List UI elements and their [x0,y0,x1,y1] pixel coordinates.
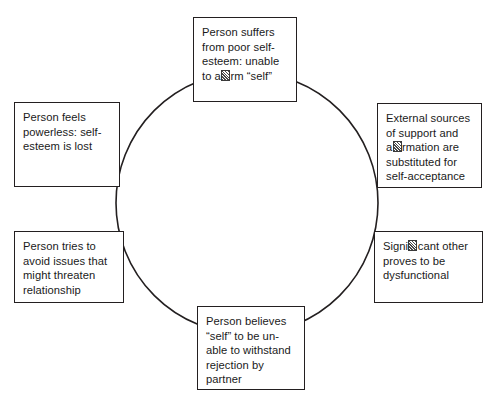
node-significant-other-line-1: Signicant other [383,239,475,254]
node-external-sources-line-3-post: rmation are [402,141,459,153]
node-self-unable-withstand-rejection: Person believes “self” to be un- able to… [197,306,305,390]
node-significant-other-line-1-pre: Signi [383,240,408,252]
node-avoid-issues-line-2: avoid issues that [23,254,116,269]
node-self-unable-line-5: partner [206,372,297,387]
node-avoid-threatening-issues: Person tries to avoid issues that might … [14,231,124,303]
node-self-unable-line-4: rejection by [206,358,297,373]
node-self-unable-line-1: Person believes [206,314,297,329]
node-avoid-issues-line-3: might threaten [23,268,116,283]
node-avoid-issues-line-4: relationship [23,283,116,298]
node-poor-self-esteem-line-1: Person suffers [202,25,289,40]
node-external-sources-line-3: armation are [386,140,474,155]
node-external-sources-line-4: substituted for [386,155,474,170]
node-poor-self-esteem-line-2: from poor self- [202,40,289,55]
node-significant-other-line-1-post: cant other [418,240,468,252]
node-external-sources-line-5: self-acceptance [386,169,474,184]
node-poor-self-esteem-line-4: to arm “self” [202,69,289,84]
node-external-sources: External sources of support and armation… [377,103,482,188]
node-feels-powerless-line-3: esteem is lost [23,139,112,154]
node-poor-self-esteem-line-4-post: rm “self” [230,70,271,82]
page-caption [0,396,489,408]
node-poor-self-esteem-line-4-pre: to a [202,70,221,82]
missing-glyph-icon [221,70,230,81]
node-self-unable-line-2: “self” to be un- [206,329,297,344]
missing-glyph-icon [408,240,417,251]
node-significant-other-dysfunctional: Signicant other proves to be dysfunction… [374,231,483,303]
node-avoid-issues-line-1: Person tries to [23,239,116,254]
node-self-unable-line-3: able to withstand [206,343,297,358]
node-external-sources-line-2: of support and [386,126,474,141]
node-significant-other-line-2: proves to be [383,254,475,269]
node-external-sources-line-3-pre: a [386,141,392,153]
missing-glyph-icon [393,141,402,152]
diagram-page: Person suffers from poor self- esteem: u… [0,0,489,408]
node-external-sources-line-1: External sources [386,111,474,126]
node-feels-powerless: Person feels powerless: self- esteem is … [14,102,120,187]
node-poor-self-esteem: Person suffers from poor self- esteem: u… [193,17,297,102]
node-poor-self-esteem-line-3: esteem: unable [202,54,289,69]
cycle-circle-path [116,72,378,334]
node-significant-other-line-3: dysfunctional [383,268,475,283]
node-feels-powerless-line-2: powerless: self- [23,125,112,140]
node-feels-powerless-line-1: Person feels [23,110,112,125]
